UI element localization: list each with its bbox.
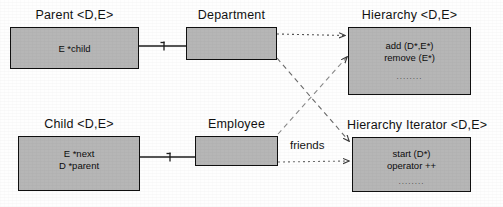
- class-member-hierarchy-0: add (D*,E*): [349, 40, 470, 52]
- class-box-child[interactable]: E *next D *parent: [18, 136, 140, 191]
- class-member-child-0: E *next: [19, 148, 139, 160]
- dependency-employee-hierarchy: [278, 57, 347, 134]
- class-box-hierarchy[interactable]: add (D*,E*) remove (E*) ........: [348, 27, 471, 95]
- class-ellipsis-hierarchy: ........: [349, 71, 470, 83]
- dependency-department-hierarchy-iterator: [277, 58, 349, 141]
- class-box-hierarchy-iterator[interactable]: start (D*) operator ++ ........: [352, 137, 471, 192]
- class-ellipsis-hierarchy-iterator: ........: [353, 176, 470, 188]
- class-title-employee: Employee: [195, 117, 278, 131]
- class-title-child: Child <D,E>: [18, 117, 140, 131]
- class-member-hierarchy-iterator-0: start (D*): [353, 148, 470, 160]
- dependency-employee-hierarchy-iterator: [278, 161, 349, 162]
- association-parent-department: [139, 42, 186, 51]
- class-title-hierarchy-iterator: Hierarchy Iterator <D,E>: [347, 118, 503, 132]
- class-member-child-1: D *parent: [19, 160, 139, 172]
- class-title-department: Department: [186, 8, 277, 22]
- uml-diagram-canvas: Hierarchy : dotted dependency --> Hierar…: [0, 0, 503, 207]
- class-box-department[interactable]: [186, 27, 277, 60]
- class-box-employee[interactable]: [195, 136, 278, 166]
- class-title-parent: Parent <D,E>: [10, 8, 139, 22]
- class-member-hierarchy-iterator-1: operator ++: [353, 160, 470, 172]
- association-child-employee: [140, 153, 195, 162]
- class-box-parent[interactable]: E *child: [10, 27, 139, 69]
- class-member-parent-0: E *child: [11, 43, 138, 55]
- dependency-department-hierarchy: [277, 34, 345, 36]
- class-title-hierarchy: Hierarchy <D,E>: [348, 8, 471, 22]
- class-member-hierarchy-1: remove (E*): [349, 52, 470, 64]
- edge-label-friends: friends: [290, 139, 325, 151]
